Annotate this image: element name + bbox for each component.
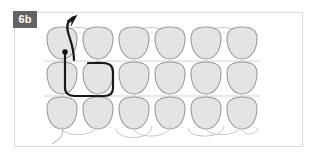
stitch — [227, 27, 257, 59]
stitch — [155, 27, 185, 59]
stitch-row-3 — [47, 97, 257, 129]
stitch — [191, 62, 221, 94]
stitch — [119, 62, 149, 94]
row1-row2-legs — [44, 59, 260, 66]
figure-label-badge: 6b — [13, 11, 37, 28]
stitch — [47, 62, 77, 94]
stitch — [227, 62, 257, 94]
stitch — [155, 62, 185, 94]
marker-dot — [62, 49, 67, 54]
stitch — [191, 27, 221, 59]
yarn-tail — [52, 127, 63, 144]
figure-root: 6b — [0, 0, 319, 161]
stitch — [83, 97, 113, 129]
stitch — [47, 27, 77, 59]
stitch — [47, 97, 77, 129]
stitch — [83, 27, 113, 59]
stitch-row-2 — [47, 62, 257, 94]
stitch — [155, 97, 185, 129]
stitch-diagram-canvas — [0, 0, 319, 161]
stitch-row-1 — [47, 27, 257, 59]
stitch — [191, 97, 221, 129]
stitch — [119, 97, 149, 129]
stitch — [83, 62, 113, 94]
stitch — [227, 97, 257, 129]
stitch — [119, 27, 149, 59]
